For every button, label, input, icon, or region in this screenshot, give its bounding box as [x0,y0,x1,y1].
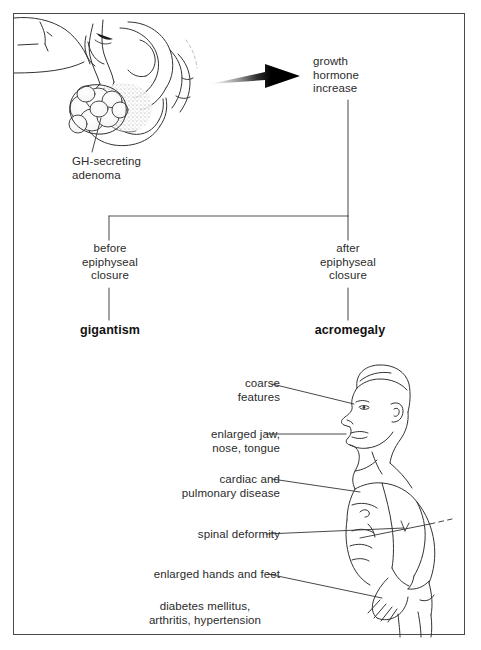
label-enlarged-hands-and-feet: enlarged hands and feet [130,568,280,582]
label-after-epiphyseal-closure: after epiphyseal closure [306,242,390,283]
label-gigantism: gigantism [68,324,152,338]
label-spinal-deformity: spinal deformity [152,528,280,542]
label-diabetes-arthritis-hypertension: diabetes mellitus, arthritis, hypertensi… [124,600,286,627]
label-gh-secreting-adenoma: GH-secreting adenoma [72,155,141,182]
label-acromegaly: acromegaly [304,324,396,338]
label-cardiac-and-pulmonary-disease: cardiac and pulmonary disease [132,473,280,500]
label-before-epiphyseal-closure: before epiphyseal closure [68,242,152,283]
label-coarse-features: coarse features [190,377,280,404]
label-growth-hormone-increase: growth hormone increase [313,55,359,96]
diagram-page: GH-secreting adenoma growth hormone incr… [0,0,481,650]
label-enlarged-jaw-nose-tongue: enlarged jaw, nose, tongue [152,428,280,455]
